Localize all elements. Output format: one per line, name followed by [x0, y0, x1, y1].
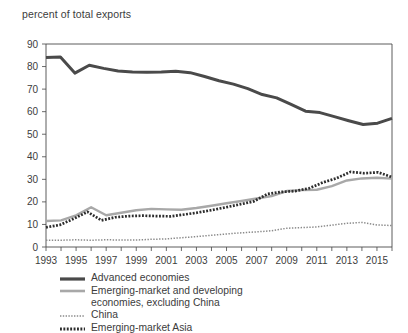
x-axis-ticks: 1993199519971999200120032005200720092011…: [35, 247, 392, 266]
y-tick-label: 80: [27, 61, 39, 72]
x-tick-label: 2005: [215, 255, 238, 266]
x-tick-label: 2001: [155, 255, 178, 266]
x-tick-label: 2003: [185, 255, 208, 266]
x-tick-label: 2007: [245, 255, 268, 266]
series-line-3: [46, 172, 392, 227]
chart-legend: Advanced economies Emerging-market and d…: [60, 272, 390, 333]
y-tick-label: 20: [27, 196, 39, 207]
legend-swatch-china: [60, 309, 85, 321]
legend-item-emerging-market-asia: Emerging-market Asia: [60, 322, 390, 333]
x-tick-label: 2015: [366, 255, 389, 266]
legend-label-emerging-market-asia: Emerging-market Asia: [91, 322, 192, 333]
legend-swatch-advanced-economies: [60, 272, 85, 284]
y-tick-label: 50: [27, 129, 39, 140]
y-tick-label: 40: [27, 151, 39, 162]
chart-container: percent of total exports 010203040506070…: [0, 0, 408, 333]
series-lines: [46, 57, 392, 240]
x-tick-label: 2009: [276, 255, 299, 266]
legend-label-china: China: [91, 309, 118, 321]
x-tick-label: 1993: [35, 255, 58, 266]
legend-label-emerging-excl-china: Emerging-market and developing economies…: [91, 285, 243, 308]
legend-swatch-emerging-market-asia: [60, 322, 85, 333]
y-tick-label: 0: [32, 242, 38, 253]
legend-item-advanced-economies: Advanced economies: [60, 272, 390, 284]
y-tick-label: 70: [27, 84, 39, 95]
legend-label-advanced-economies: Advanced economies: [91, 272, 189, 284]
plot-area: 0102030405060708090 19931995199719992001…: [0, 0, 408, 270]
legend-item-emerging-excl-china: Emerging-market and developing economies…: [60, 285, 390, 308]
y-axis-ticks: 0102030405060708090: [27, 39, 46, 253]
y-tick-label: 30: [27, 174, 39, 185]
series-line-1: [46, 178, 392, 221]
x-tick-label: 2011: [306, 255, 328, 266]
legend-swatch-emerging-excl-china: [60, 285, 85, 297]
y-tick-label: 90: [27, 39, 39, 50]
y-tick-label: 60: [27, 106, 39, 117]
series-line-2: [46, 222, 392, 240]
y-tick-label: 10: [27, 219, 39, 230]
x-tick-label: 2013: [336, 255, 359, 266]
legend-item-china: China: [60, 309, 390, 321]
x-tick-label: 1999: [125, 255, 148, 266]
x-tick-label: 1997: [95, 255, 118, 266]
series-line-0: [46, 57, 392, 124]
x-tick-label: 1995: [65, 255, 88, 266]
